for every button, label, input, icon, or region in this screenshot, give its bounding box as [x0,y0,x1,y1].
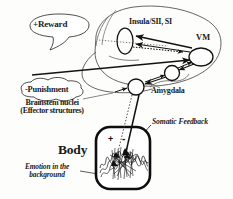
punishment-label: -Punishment [25,86,68,95]
reward-label: +Reward [33,20,67,29]
body-plus-sign: + [108,134,113,144]
emotion-background-label: Emotion in the background [14,163,80,179]
body-label: Body [58,143,87,157]
somatic-feedback-figure: +Reward -Punishment Insula/SII, SI VM Am… [0,0,233,199]
amygdala-node [165,66,180,81]
emotion-line-2: background [14,171,80,179]
somatic-feedback-label: Somatic Feedback [152,118,208,126]
insula-label: Insula/SII, SI [129,18,172,26]
insula-region-ellipse [117,28,133,54]
amygdala-label: Amygdala [151,87,185,95]
vm-label: VM [196,34,210,43]
brainstem-line-2: (Effector structures) [4,107,100,115]
brainstem-nuclei-label: Brainstem nuclei (Effector structures) [4,99,100,116]
body-minus-sign: - [122,133,125,144]
vm-node [189,48,213,66]
brainstem-node [128,79,144,95]
